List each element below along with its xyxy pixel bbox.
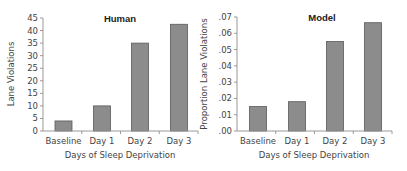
y-tick-label: .03	[218, 77, 232, 87]
y-tick-label: 0	[33, 126, 38, 136]
chart-title: Human	[104, 13, 136, 24]
x-tick-label: Baseline	[45, 136, 81, 146]
bar-day-3	[171, 24, 188, 131]
human-bar-chart: Human051015202530354045BaselineDay 1Day …	[6, 13, 198, 160]
x-axis-title: Days of Sleep Deprivation	[259, 150, 370, 160]
human-chart: Human051015202530354045BaselineDay 1Day …	[0, 0, 407, 171]
y-tick-label: .04	[218, 61, 232, 71]
y-tick-label: 15	[27, 88, 38, 98]
y-tick-label: 45	[27, 13, 38, 23]
y-tick-label: 5	[33, 113, 38, 123]
bar-baseline	[250, 107, 267, 131]
x-tick-label: Day 3	[167, 136, 192, 146]
y-tick-label: 35	[27, 38, 38, 48]
bar-day-3	[365, 23, 382, 131]
y-tick-label: 20	[27, 76, 38, 86]
y-tick-label: .05	[218, 45, 232, 55]
y-tick-label: 25	[27, 63, 38, 73]
x-axis-title: Days of Sleep Deprivation	[65, 150, 176, 160]
y-tick-label: 10	[27, 101, 38, 111]
y-axis-title: Lane Violations	[6, 41, 16, 106]
y-tick-label: 30	[27, 51, 38, 61]
y-tick-label: .02	[218, 93, 232, 103]
x-tick-label: Day 1	[285, 136, 310, 146]
bar-baseline	[55, 121, 72, 131]
bar-day-1	[289, 102, 306, 131]
bar-day-1	[94, 106, 111, 131]
x-tick-label: Day 3	[361, 136, 386, 146]
x-tick-label: Day 1	[90, 136, 115, 146]
x-tick-label: Baseline	[240, 136, 276, 146]
y-axis-title: Proportion Lane Violations	[199, 18, 209, 130]
model-bar-chart: Model.00.01.02.03.04.05.06.07BaselineDay…	[199, 12, 392, 160]
x-tick-label: Day 2	[323, 136, 348, 146]
y-tick-label: .01	[218, 110, 232, 120]
bar-day-2	[327, 41, 344, 131]
y-tick-label: .06	[218, 28, 232, 38]
chart-title: Model	[308, 12, 335, 23]
x-tick-label: Day 2	[128, 136, 153, 146]
bar-day-2	[132, 43, 149, 131]
y-tick-label: 40	[27, 26, 38, 36]
y-tick-label: .00	[218, 126, 232, 136]
y-tick-label: .07	[218, 12, 232, 22]
